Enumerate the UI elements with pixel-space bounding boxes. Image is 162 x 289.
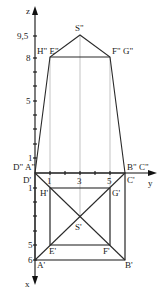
z-axis xyxy=(32,6,38,173)
label-a-prime: A' xyxy=(37,260,45,270)
x-tick-6: 6 xyxy=(28,255,33,265)
z-tick-5: 5 xyxy=(26,96,31,106)
z-axis-label: z xyxy=(26,6,30,16)
label-e-prime: E' xyxy=(49,246,56,256)
z-tick-9-5: 9,5 xyxy=(17,31,29,41)
label-s-double-prime: S" xyxy=(75,23,84,33)
label-f-prime: F' xyxy=(103,246,110,256)
construction-lines xyxy=(50,35,125,260)
label-d-a-double-prime: D" A" xyxy=(13,162,35,172)
label-b-c-double-prime: B" C" xyxy=(127,162,149,172)
y-tick-1: 1 xyxy=(47,176,52,186)
label-d-prime: D' xyxy=(23,175,31,185)
label-b-prime: B' xyxy=(125,260,133,270)
label-h-prime: H' xyxy=(40,188,48,198)
y-tick-5: 5 xyxy=(107,176,112,186)
label-f-g-double-prime: F" G" xyxy=(112,46,133,56)
label-h-e-double-prime: H" E" xyxy=(37,46,59,56)
x-tick-5: 5 xyxy=(28,240,33,250)
label-c-prime: C' xyxy=(127,175,135,185)
label-s-prime: S' xyxy=(75,222,82,232)
y-tick-3: 3 xyxy=(77,176,82,186)
technical-drawing: z y x 9,5 8 5 1 1 3 5 1 5 6 S" H" E" F" … xyxy=(0,0,162,289)
x-axis-label: x xyxy=(25,279,30,289)
y-axis-label: y xyxy=(148,178,153,188)
z-tick-8: 8 xyxy=(26,53,31,63)
label-g-prime: G' xyxy=(112,188,120,198)
